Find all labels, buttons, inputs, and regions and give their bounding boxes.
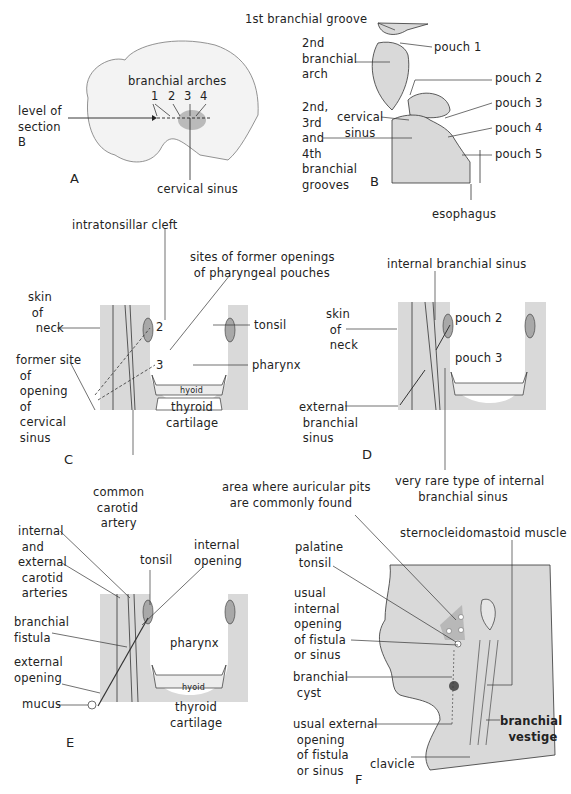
label-arch-3: 3 [184,89,192,105]
label-arch-4: 4 [200,89,208,105]
label-carotid-arteries: internal and external carotid arteries [18,524,68,602]
label-arch-2: 2 [168,89,176,105]
label-2nd-branchial-arch: 2nd branchial arch [302,36,357,83]
label-usual-internal-opening: usual internal opening of fistula or sin… [294,586,346,664]
panel-a-embryo-drawing [68,41,258,180]
label-pouch-4: pouch 4 [495,121,543,137]
label-very-rare-type: very rare type of internal branchial sin… [395,474,544,505]
label-pouch-2: pouch 2 [495,71,543,87]
label-clavicle: clavicle [370,757,415,773]
label-pouch-2-d: pouch 2 [455,311,503,327]
label-sternocleidomastoid: sternocleidomastoid muscle [400,526,567,542]
label-common-carotid: common carotid artery [93,485,144,532]
label-pharynx-c: pharynx [252,358,301,374]
label-external-opening: external opening [14,655,63,686]
panel-letter-b: B [370,174,379,189]
label-tonsil-e: tonsil [140,553,172,569]
label-hyoid-e: hyoid [182,680,205,696]
label-level-of-section: level of section B [18,104,62,151]
label-palatine-tonsil: palatine tonsil [295,540,343,571]
panel-letter-c: C [64,452,73,467]
label-number-3: 3 [156,358,164,374]
label-esophagus: esophagus [432,207,496,223]
label-sites-former-openings: sites of former openings of pharyngeal p… [190,250,335,281]
label-skin-of-neck-c: skin of neck [28,290,64,337]
label-hyoid-c: hyoid [180,383,203,399]
label-skin-of-neck-d: skin of neck [326,307,358,354]
figure-drawings [0,0,571,794]
label-arch-1: 1 [151,89,159,105]
label-1st-branchial-groove: 1st branchial groove [245,12,367,28]
label-thyroid-cartilage-c: thyroid cartilage [166,400,218,431]
label-pouch-1: pouch 1 [434,40,482,56]
panel-letter-e: E [66,735,74,750]
panel-letter-f: F [355,772,362,787]
label-internal-branchial-sinus: internal branchial sinus [387,257,526,273]
panel-d-section-drawing [345,271,546,470]
label-pouch-5: pouch 5 [495,147,543,163]
label-pouch-3: pouch 3 [495,96,543,112]
label-cervical-sinus-a: cervical sinus [157,182,238,198]
label-internal-opening: internal opening [194,538,242,569]
label-branchial-fistula: branchial fistula [14,615,69,646]
label-auricular-pits-area: area where auricular pits are commonly f… [222,480,371,511]
label-usual-external-opening: usual external opening of fistula or sin… [293,717,378,779]
label-branchial-cyst: branchial cyst [293,670,348,701]
label-tonsil-c: tonsil [254,318,286,334]
label-branchial-arches: branchial arches [128,74,226,90]
panel-letter-a: A [70,171,79,186]
label-branchial-vestige: branchial vestige [500,714,562,745]
label-pouch-3-d: pouch 3 [455,351,503,367]
label-external-branchial-sinus: external branchial sinus [299,400,358,447]
panel-letter-d: D [362,447,372,462]
label-number-2: 2 [156,320,164,336]
label-thyroid-cartilage-e: thyroid cartilage [170,700,222,731]
label-pharynx-e: pharynx [170,636,219,652]
label-mucus: mucus [22,697,61,713]
label-intratonsillar-cleft: intratonsillar cleft [72,218,178,234]
label-branchial-grooves: 2nd, 3rd and 4th branchial grooves [302,100,357,193]
label-former-site: former site of opening of cervical sinus [16,353,81,446]
